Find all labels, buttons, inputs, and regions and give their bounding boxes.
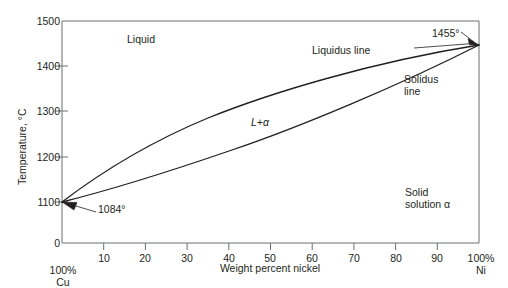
solidus-line-label-2: line	[404, 85, 420, 97]
x-tick-label-80: 80	[381, 252, 411, 264]
y-tick-label-1500: 1500	[28, 15, 60, 27]
y-axis-title: Temperature, °C	[16, 108, 28, 185]
y-tick-label-zero: 0	[28, 237, 60, 249]
x-tick-label-20: 20	[130, 252, 160, 264]
temp-1084-label: 1084°	[98, 203, 126, 215]
solidus-curve	[62, 45, 479, 202]
liquidus-curve	[62, 45, 479, 202]
x-axis-title: Weight percent nickel	[190, 262, 350, 274]
phase-diagram-figure: 1500 1400 1300 1200 1100 0 Temperature, …	[0, 0, 508, 288]
y-tick-label-1200: 1200	[28, 151, 60, 163]
y-tick-label-1400: 1400	[28, 60, 60, 72]
region-label-l-plus-alpha: L+α	[251, 116, 269, 128]
right-endpoint-element: Ni	[459, 264, 503, 277]
x-axis-ticks	[104, 243, 438, 250]
left-endpoint-element: Cu	[43, 276, 83, 288]
region-label-liquid: Liquid	[127, 33, 155, 45]
liquidus-line-label: Liquidus line	[312, 44, 370, 56]
solidus-line-label-1: Solidus	[404, 73, 438, 85]
temp-1084-leader	[62, 202, 96, 212]
x-tick-label-90: 90	[422, 252, 452, 264]
solid-solution-label-2: solution α	[405, 198, 450, 210]
phase-diagram-plot	[0, 0, 508, 288]
y-tick-label-1300: 1300	[28, 105, 60, 117]
temp-1455-label: 1455°	[432, 27, 460, 39]
solid-solution-label-1: Solid	[405, 186, 428, 198]
y-tick-label-1100: 1100	[28, 196, 60, 208]
x-tick-label-10: 10	[89, 252, 119, 264]
